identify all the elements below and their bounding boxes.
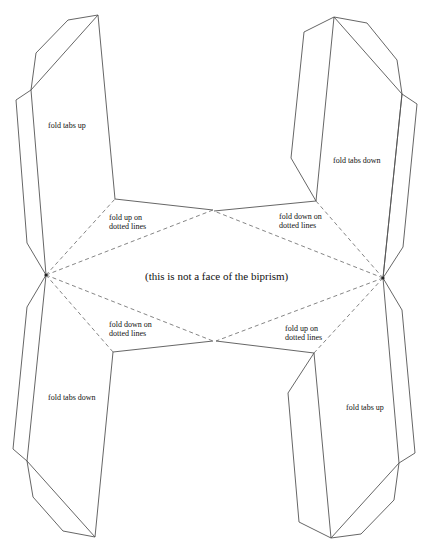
top-right-fold-label: fold down on dotted lines — [279, 212, 322, 230]
top-left-tabs-label: fold tabs up — [48, 121, 86, 130]
center-note: (this is not a face of the biprism) — [145, 270, 288, 282]
bottom-right-fold-line1: fold up on — [285, 324, 322, 333]
bottom-right-tabs-label: fold tabs up — [346, 403, 384, 412]
top-left-fold-label: fold up on dotted lines — [109, 213, 146, 231]
left-apex-vertex — [44, 273, 47, 276]
top-right-fold-line1: fold down on — [279, 212, 322, 221]
top-right-fold-line2: dotted lines — [279, 221, 322, 230]
bottom-left-fold-line1: fold down on — [109, 320, 152, 329]
right-apex-vertex — [381, 276, 384, 279]
top-left-face — [16, 15, 213, 275]
bottom-right-fold-label: fold up on dotted lines — [285, 324, 322, 342]
bottom-right-face — [216, 278, 415, 538]
bottom-left-fold-line2: dotted lines — [109, 329, 152, 338]
bottom-right-fold-line2: dotted lines — [285, 333, 322, 342]
top-left-fold-line1: fold up on — [109, 213, 146, 222]
top-left-fold-line2: dotted lines — [109, 222, 146, 231]
bottom-left-tabs-label: fold tabs down — [48, 393, 96, 402]
bottom-left-fold-label: fold down on dotted lines — [109, 320, 152, 338]
top-right-tabs-label: fold tabs down — [333, 156, 381, 165]
bottom-left-face — [13, 275, 213, 537]
top-right-face — [214, 17, 417, 278]
